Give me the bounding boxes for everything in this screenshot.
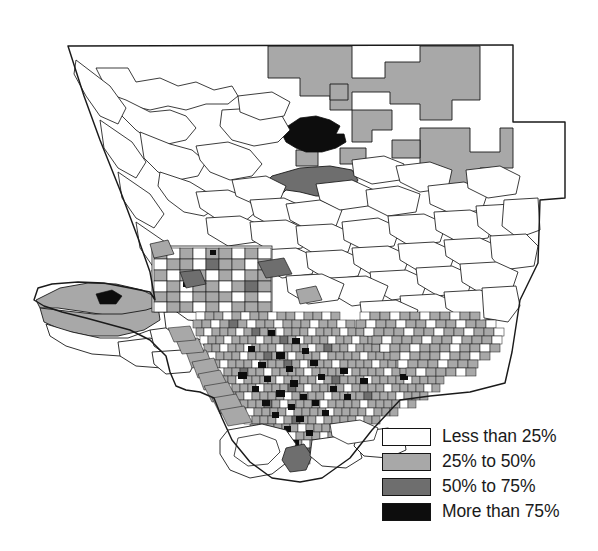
legend-item-1: 25% to 50%	[382, 450, 592, 474]
legend-item-3: More than 75%	[382, 500, 592, 524]
map-canvas	[34, 45, 565, 482]
legend-swatch-50-to-75	[382, 478, 431, 496]
legend-swatch-less-than-25	[382, 428, 431, 446]
legend-item-2: 50% to 75%	[382, 475, 592, 499]
legend-swatch-more-than-75	[382, 503, 431, 521]
legend-label-25-to-50: 25% to 50%	[442, 453, 535, 471]
legend-swatch-25-to-50	[382, 453, 431, 471]
legend-label-more-than-75: More than 75%	[442, 503, 559, 521]
legend-label-less-than-25: Less than 25%	[442, 428, 556, 446]
map-legend: Less than 25% 25% to 50% 50% to 75% More…	[382, 425, 592, 523]
legend-label-50-to-75: 50% to 75%	[442, 478, 535, 496]
legend-item-0: Less than 25%	[382, 425, 592, 449]
choropleth-figure: Less than 25% 25% to 50% 50% to 75% More…	[0, 0, 598, 551]
san-fernando-valley-tracts	[152, 246, 272, 312]
region-lancaster-core	[282, 116, 346, 152]
